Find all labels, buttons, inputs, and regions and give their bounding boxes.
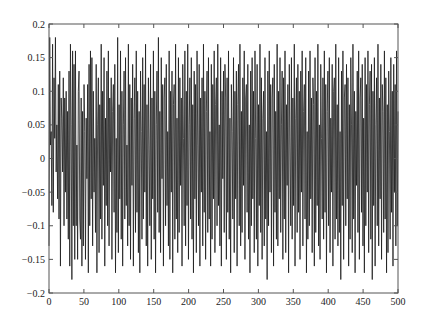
y-tick-label: 0 [40, 153, 45, 164]
y-tick-label: −0.2 [27, 288, 45, 299]
x-tick-label: 50 [79, 296, 89, 307]
x-tick-label: 150 [146, 296, 161, 307]
y-tick-label: −0.05 [22, 187, 45, 198]
line-chart: 050100150200250300350400450500 −0.2−0.15… [0, 0, 425, 331]
y-tick-label: 0.2 [33, 19, 46, 30]
x-tick-label: 250 [216, 296, 231, 307]
x-tick-label: 450 [356, 296, 371, 307]
x-tick-label: 200 [181, 296, 196, 307]
x-tick-label: 300 [251, 296, 266, 307]
x-tick-label: 500 [391, 296, 406, 307]
y-tick-label: 0.15 [28, 52, 46, 63]
y-tick-label: 0.1 [33, 86, 46, 97]
signal-line [49, 37, 398, 279]
x-tick-label: 400 [321, 296, 336, 307]
y-tick-label: −0.1 [27, 220, 45, 231]
x-tick-label: 100 [111, 296, 126, 307]
y-tick-label: 0.05 [28, 119, 46, 130]
y-tick-label: −0.15 [22, 254, 45, 265]
chart-container: 050100150200250300350400450500 −0.2−0.15… [0, 0, 425, 331]
x-tick-label: 350 [286, 296, 301, 307]
x-tick-label: 0 [47, 296, 52, 307]
signal-path [49, 37, 398, 279]
